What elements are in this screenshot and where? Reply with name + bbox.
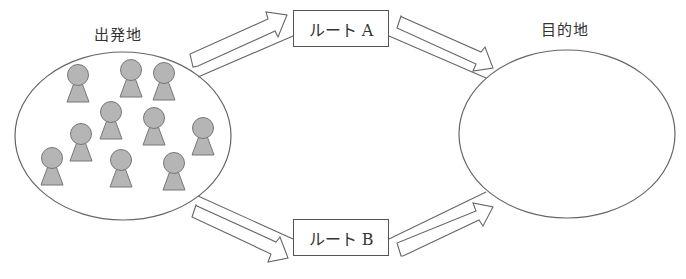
arrow-route-a-to-destination — [397, 16, 493, 71]
route-b-box: ルート B — [293, 219, 389, 256]
route-a-box: ルート A — [293, 10, 389, 47]
arrow-origin-to-route-a — [190, 12, 287, 67]
destination-label: 目的地 — [541, 18, 589, 39]
destination-ellipse — [459, 50, 675, 218]
arrow-origin-to-route-b — [192, 205, 288, 262]
route-a-label: ルート A — [309, 17, 374, 41]
arrow-route-b-to-destination — [397, 203, 493, 256]
route-b-label: ルート B — [309, 226, 374, 250]
origin-label: 出発地 — [94, 23, 142, 44]
